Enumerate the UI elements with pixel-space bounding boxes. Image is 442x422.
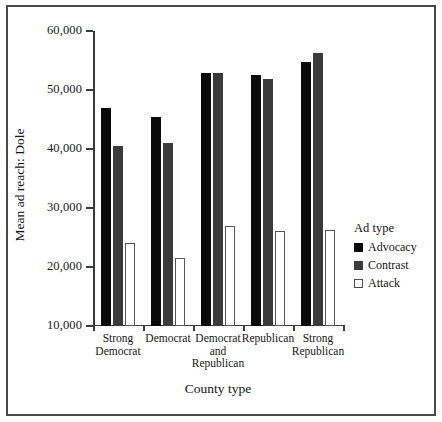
category-label-line: Strong xyxy=(283,332,353,345)
x-axis-tick xyxy=(93,325,95,331)
legend: Ad type AdvocacyContrastAttack xyxy=(354,221,438,294)
y-axis-title-text: Mean ad reach: Dole xyxy=(12,129,28,242)
x-axis-title: County type xyxy=(93,381,343,397)
x-axis-tick xyxy=(243,325,245,331)
legend-label: Contrast xyxy=(368,258,409,273)
x-axis-tick xyxy=(343,325,345,331)
legend-entry: Attack xyxy=(354,276,438,291)
legend-label: Attack xyxy=(368,276,400,291)
bar-contrast xyxy=(163,143,174,326)
bar-attack xyxy=(175,258,186,326)
chart-figure: Mean ad reach: Dole 10,00020,00030,00040… xyxy=(0,0,442,422)
bar-attack xyxy=(125,243,136,326)
y-axis-tick xyxy=(86,325,93,327)
legend-swatch-attack xyxy=(354,279,363,288)
x-axis-tick xyxy=(193,325,195,331)
bar-attack xyxy=(225,226,236,326)
legend-title: Ad type xyxy=(354,221,438,236)
bar-contrast xyxy=(213,73,224,326)
legend-entries: AdvocacyContrastAttack xyxy=(354,240,438,291)
bar-advocacy xyxy=(201,73,212,326)
category-label-line: and xyxy=(183,345,253,358)
figure-border-bottom xyxy=(6,414,436,416)
bar-contrast xyxy=(263,79,274,326)
category-label-line: Democrat xyxy=(83,345,153,358)
bar-contrast xyxy=(313,53,324,326)
legend-entry: Advocacy xyxy=(354,240,438,255)
legend-swatch-contrast xyxy=(354,261,363,270)
x-axis-tick xyxy=(143,325,145,331)
legend-swatch-advocacy xyxy=(354,243,363,252)
y-axis-title: Mean ad reach: Dole xyxy=(10,105,30,265)
bar-attack xyxy=(325,230,336,326)
y-axis-tick-label: 40,000 xyxy=(47,141,82,156)
y-axis-tick xyxy=(86,89,93,91)
category-label-line: Republican xyxy=(183,357,253,370)
bar-contrast xyxy=(113,146,124,326)
x-axis-category-label: StrongRepublican xyxy=(283,332,353,357)
plot-area xyxy=(93,31,343,326)
y-axis-tick xyxy=(86,266,93,268)
legend-entry: Contrast xyxy=(354,258,438,273)
bar-advocacy xyxy=(301,62,312,326)
y-axis-tick xyxy=(86,148,93,150)
y-axis-line xyxy=(93,31,95,326)
category-label-line: Republican xyxy=(283,345,353,358)
y-axis-tick-label: 30,000 xyxy=(47,200,82,215)
figure-border-left xyxy=(6,5,8,416)
y-axis-tick xyxy=(86,207,93,209)
legend-label: Advocacy xyxy=(368,240,417,255)
y-axis-tick-label: 50,000 xyxy=(47,82,82,97)
y-axis-tick xyxy=(86,30,93,32)
y-axis-tick-label: 60,000 xyxy=(47,23,82,38)
bar-advocacy xyxy=(151,117,162,326)
bar-attack xyxy=(275,231,286,326)
y-axis-tick-label: 20,000 xyxy=(47,259,82,274)
bar-advocacy xyxy=(101,108,112,326)
y-axis-tick-label: 10,000 xyxy=(47,318,82,333)
x-axis-tick xyxy=(293,325,295,331)
figure-border-right xyxy=(434,5,436,416)
figure-border-top xyxy=(6,5,436,7)
bar-advocacy xyxy=(251,75,262,326)
